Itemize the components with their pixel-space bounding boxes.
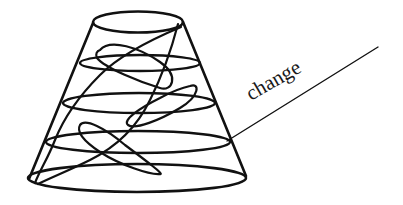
change-annotation: change <box>227 47 378 141</box>
cone-top-ellipse <box>93 12 183 33</box>
cone-ring-1 <box>80 55 200 71</box>
cone-wireframe <box>28 12 246 193</box>
helix-strand-1 <box>35 27 181 183</box>
cone-left-side <box>29 23 93 179</box>
helix-loop-upper <box>96 45 172 89</box>
cone-diagram: change <box>0 0 403 205</box>
cone-bottom-ellipse <box>28 164 246 192</box>
cone-ring-3 <box>46 131 230 153</box>
